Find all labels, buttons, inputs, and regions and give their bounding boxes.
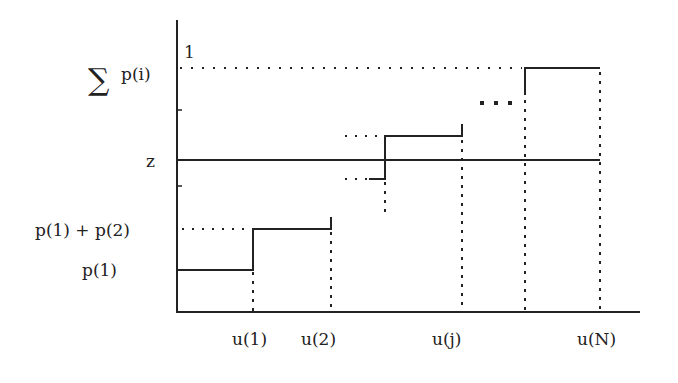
ellipsis-dots	[480, 101, 512, 105]
label-sum-p: p(i)	[121, 64, 151, 84]
label-p1-plus-p2: p(1) + p(2)	[35, 220, 130, 240]
label-z: z	[146, 151, 155, 171]
sigma-symbol: ∑	[88, 62, 110, 97]
label-uN: u(N)	[577, 329, 616, 349]
step-segment-n	[525, 68, 600, 95]
label-u1: u(1)	[232, 329, 267, 349]
label-p1: p(1)	[82, 260, 117, 280]
label-u2: u(2)	[301, 329, 336, 349]
label-uj: u(j)	[432, 329, 461, 349]
label-one: 1	[184, 42, 195, 62]
step-function-diagram: 1 ∑ p(i) z p(1) + p(2) p(1) u(1) u(2) u(…	[0, 0, 678, 383]
step-segment-1	[177, 217, 331, 270]
step-segment-j	[369, 124, 462, 179]
